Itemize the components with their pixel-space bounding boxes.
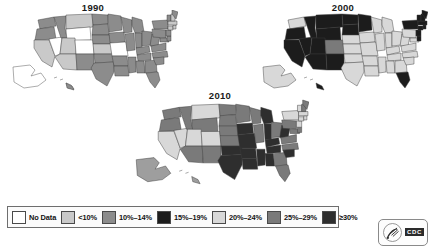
state-RI: [423, 25, 426, 29]
state-ND: [342, 14, 358, 25]
map-panel-2000: 2000: [258, 2, 428, 94]
state-LA: [364, 66, 379, 76]
state-MA: [168, 21, 177, 25]
state-CO: [201, 131, 221, 146]
legend-item-15-19: 15%–19%: [157, 211, 207, 224]
state-FL: [275, 165, 290, 182]
state-PA: [402, 29, 416, 38]
legend-swatch-lt-10: [61, 211, 75, 224]
state-UT: [310, 38, 326, 54]
state-KS: [93, 44, 112, 54]
state-FL: [146, 72, 160, 88]
state-RI: [173, 25, 176, 29]
state-ID: [54, 16, 67, 38]
state-NE: [342, 35, 361, 44]
state-AK: [13, 65, 46, 88]
state-IL: [254, 124, 264, 143]
map-panel-2010: 2010: [131, 90, 309, 190]
state-MS: [257, 149, 265, 166]
state-IN: [385, 33, 392, 48]
legend-swatch-20-24: [212, 211, 226, 224]
state-MA: [418, 21, 427, 25]
legend-swatch-gte-30: [322, 211, 336, 224]
state-PA: [152, 29, 166, 38]
us-choropleth-1990: [8, 10, 178, 94]
state-MN: [358, 14, 372, 32]
state-AL: [386, 61, 395, 73]
legend-swatch-25-29: [267, 211, 281, 224]
state-CT: [168, 26, 173, 30]
state-UT: [185, 129, 202, 146]
state-IL: [375, 33, 385, 51]
state-MN: [108, 14, 122, 32]
us-choropleth-2000: [258, 10, 428, 94]
hawaii-islets: [304, 77, 313, 80]
legend-swatch-10-14: [102, 211, 116, 224]
state-NY: [282, 110, 299, 119]
map-title-1990: 1990: [8, 2, 178, 13]
state-IL: [125, 33, 135, 51]
hhs-caduceus-bird-icon: [382, 222, 403, 243]
cdc-wordmark: CDC: [405, 228, 424, 236]
state-IA: [237, 123, 254, 135]
state-DE: [297, 127, 301, 132]
legend-item-no-data: No Data: [12, 211, 56, 224]
cdc-logo: CDC: [378, 219, 428, 246]
state-MI: [382, 17, 394, 33]
state-NJ: [166, 30, 171, 36]
state-CO: [75, 40, 94, 54]
state-LA: [114, 66, 129, 76]
state-LA: [242, 159, 258, 169]
us-choropleth-2010: [131, 98, 309, 190]
state-HI-main: [192, 176, 200, 183]
state-AL: [265, 153, 274, 166]
state-DE: [167, 36, 171, 41]
state-AR: [362, 56, 378, 66]
state-ID: [304, 16, 317, 38]
state-RI: [304, 116, 307, 120]
state-OK: [344, 54, 364, 63]
state-WI: [249, 107, 261, 124]
state-HI-main: [316, 83, 324, 90]
legend-item-10-14: 10%–14%: [102, 211, 152, 224]
state-MI: [261, 107, 274, 124]
state-NY: [402, 20, 418, 29]
state-IN: [264, 124, 271, 140]
state-KS: [220, 136, 240, 146]
legend-item-lt-10: <10%: [61, 211, 97, 224]
state-MT: [192, 104, 220, 120]
state-OR: [35, 27, 56, 40]
state-IN: [135, 33, 142, 48]
state-WI: [371, 17, 382, 33]
state-ND: [92, 14, 108, 25]
state-MS: [128, 57, 136, 73]
state-NC: [152, 51, 168, 58]
state-VT: [167, 15, 171, 21]
state-NC: [282, 143, 299, 150]
state-ID: [179, 106, 193, 129]
legend-item-gte-30: ≥30%: [322, 211, 357, 224]
figure-root: 1990: [0, 0, 433, 250]
state-NE: [92, 35, 111, 44]
legend-label-10-14: 10%–14%: [119, 213, 152, 222]
state-MO: [238, 134, 257, 149]
state-AL: [136, 61, 145, 73]
state-AK: [136, 158, 171, 182]
state-MN: [236, 104, 251, 123]
state-CT: [418, 26, 423, 30]
state-MT: [66, 14, 93, 29]
state-AZ: [55, 54, 77, 70]
legend-item-20-24: 20%–24%: [212, 211, 262, 224]
legend-swatch-15-19: [157, 211, 171, 224]
state-FL: [396, 72, 410, 88]
state-AR: [240, 148, 257, 158]
state-TX: [91, 62, 114, 86]
legend-label-15-19: 15%–19%: [174, 213, 207, 222]
legend-swatch-no-data: [12, 211, 26, 224]
map-panel-1990: 1990: [8, 2, 178, 94]
state-SD: [342, 24, 359, 35]
state-ND: [219, 104, 236, 116]
state-OR: [285, 27, 306, 40]
state-DE: [417, 36, 421, 41]
state-AK: [263, 65, 296, 88]
